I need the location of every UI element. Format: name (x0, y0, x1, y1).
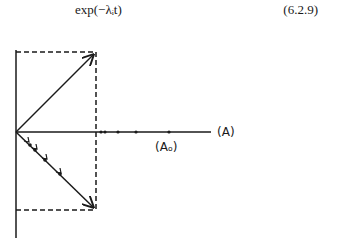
phase-diagram: (A) (Aₒ) (0, 0, 338, 238)
trajectory-arrows-diagonal (24, 137, 61, 173)
axis-label-A: (A) (217, 125, 235, 139)
point-label-A0: (Aₒ) (155, 140, 178, 154)
upper-vector-arrow (16, 55, 93, 132)
lower-vector-arrow (16, 132, 93, 207)
